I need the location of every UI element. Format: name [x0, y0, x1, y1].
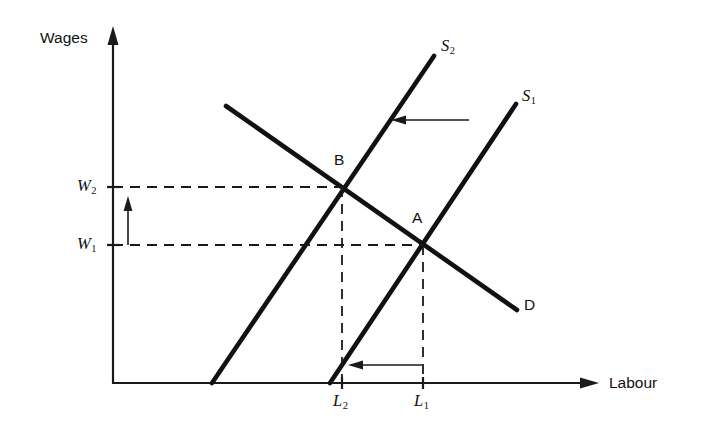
- x-axis: [112, 378, 599, 389]
- equilibrium-label-b: B: [334, 152, 344, 168]
- x-tick-label-l1-base: L: [414, 391, 423, 410]
- x-tick-label-l2: L2: [333, 393, 348, 410]
- curve-label-s1: S1: [522, 88, 536, 105]
- curve-label-s2: S2: [441, 38, 455, 55]
- y-axis: [108, 26, 119, 383]
- employment-fall-arrow: [348, 361, 422, 370]
- curve-label-s2-sub: 2: [449, 45, 455, 56]
- x-tick-label-l2-base: L: [333, 391, 342, 410]
- y-tick-label-w2: W2: [77, 178, 97, 195]
- x-axis-title: Labour: [609, 375, 657, 391]
- curve-label-s1-sub: 1: [530, 95, 536, 106]
- curve-label-s2-base: S: [441, 36, 449, 55]
- x-tick-label-l1: L1: [414, 393, 429, 410]
- supply-curve-s1: [330, 104, 516, 383]
- supply-shift-arrow: [391, 116, 469, 125]
- equilibrium-label-a: A: [412, 210, 422, 226]
- y-tick-label-w1: W1: [77, 236, 97, 253]
- y-tick-label-w1-sub: 1: [91, 243, 97, 254]
- labour-market-diagram: Wages Labour W2 W1 L2 L1 S2 S1 D B A: [0, 0, 702, 431]
- y-axis-title: Wages: [40, 30, 88, 46]
- demand-curve: [226, 106, 517, 310]
- y-axis-arrow-icon: [108, 26, 119, 45]
- y-tick-label-w2-base: W: [77, 176, 91, 195]
- chart-canvas: [0, 0, 702, 431]
- curve-label-s1-base: S: [522, 86, 530, 105]
- supply-curve-s2: [212, 56, 434, 383]
- wage-rise-arrow: [124, 196, 133, 245]
- x-axis-arrow-icon: [580, 378, 599, 389]
- x-tick-label-l2-sub: 2: [342, 400, 348, 411]
- y-tick-label-w1-base: W: [77, 234, 91, 253]
- y-tick-label-w2-sub: 2: [91, 185, 97, 196]
- curve-label-d: D: [524, 297, 535, 313]
- x-tick-label-l1-sub: 1: [423, 400, 429, 411]
